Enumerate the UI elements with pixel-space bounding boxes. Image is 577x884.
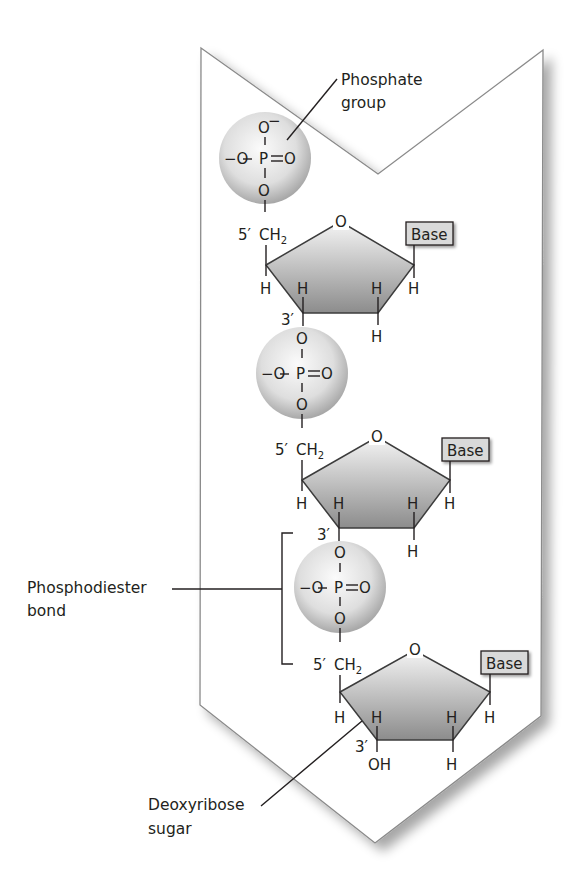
h-atom: H (484, 709, 495, 727)
label-phosphate-group-line2: group (341, 94, 386, 112)
h-atom: H (446, 756, 457, 774)
phosphate-bottom-o: O (258, 182, 270, 200)
base-label: Base (447, 442, 484, 460)
three-prime-oh: OH (368, 756, 391, 774)
three-prime-label: 3′ (355, 738, 369, 756)
label-phosphate-group: Phosphate (341, 71, 423, 89)
phosphate-group-3: O −O P O O (294, 541, 386, 633)
h-atom: H (407, 543, 418, 561)
phosphate-p: P (296, 365, 305, 383)
phosphate-group-2: O −O P O O (256, 327, 348, 419)
h-atom: H (408, 280, 419, 298)
h-atom: H (297, 280, 308, 298)
base-label: Base (411, 226, 448, 244)
phosphate-right-o: O (284, 150, 296, 168)
label-deoxyribose-sugar: Deoxyribose (148, 796, 244, 814)
five-prime-label: 5′ (238, 226, 252, 244)
h-atom: H (260, 280, 271, 298)
h-atom: H (296, 495, 307, 513)
h-atom: H (371, 328, 382, 346)
h-atom: H (446, 709, 457, 727)
label-deoxyribose-sugar-line2: sugar (148, 820, 192, 838)
phosphate-p: P (259, 150, 268, 168)
dna-strand-diagram: O − −O P O O Phosphate group 5′ CH2 O Ba… (0, 0, 577, 884)
phosphate-group-1: O − −O P O O (219, 112, 311, 204)
phosphate-right-o: O (321, 365, 333, 383)
phosphate-charge: − (268, 112, 281, 130)
h-atom: H (371, 709, 382, 727)
ring-oxygen: O (409, 641, 421, 659)
ring-oxygen: O (335, 213, 347, 231)
h-atom: H (334, 709, 345, 727)
base-label: Base (486, 655, 523, 673)
h-atom: H (371, 280, 382, 298)
phosphate-p: P (334, 579, 343, 597)
ring-oxygen: O (371, 428, 383, 446)
phosphate-right-o: O (359, 579, 371, 597)
label-phosphodiester-bond-line2: bond (27, 602, 66, 620)
phosphate-top-o: O (334, 544, 346, 562)
label-phosphodiester-bond: Phosphodiester (27, 579, 147, 597)
five-prime-label: 5′ (275, 441, 289, 459)
phosphate-top-o: O (296, 330, 308, 348)
three-prime-label: 3′ (317, 526, 331, 544)
phosphate-bottom-o: O (334, 610, 346, 628)
h-atom: H (444, 495, 455, 513)
five-prime-label: 5′ (313, 656, 327, 674)
h-atom: H (407, 495, 418, 513)
h-atom: H (333, 495, 344, 513)
phosphate-bottom-o: O (296, 396, 308, 414)
three-prime-label: 3′ (281, 311, 295, 329)
